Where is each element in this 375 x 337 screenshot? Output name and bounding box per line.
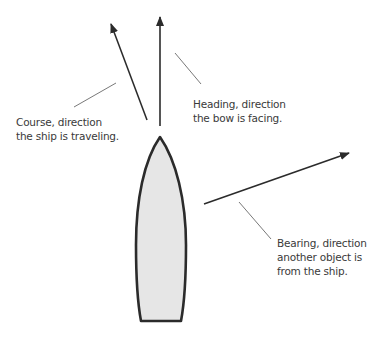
bearing-arrow — [204, 153, 349, 204]
ship-hull — [136, 137, 186, 321]
course-arrow — [111, 24, 147, 120]
diagram-graphics — [0, 0, 375, 337]
ship-direction-diagram: Course, direction the ship is traveling.… — [0, 0, 375, 337]
heading-leader-line — [175, 53, 201, 84]
heading-label: Heading, direction the bow is facing. — [193, 97, 286, 125]
bearing-leader-line — [239, 202, 271, 239]
course-label: Course, direction the ship is traveling. — [16, 115, 119, 143]
course-leader-line — [74, 83, 116, 107]
bearing-label: Bearing, direction another object is fro… — [277, 236, 367, 278]
